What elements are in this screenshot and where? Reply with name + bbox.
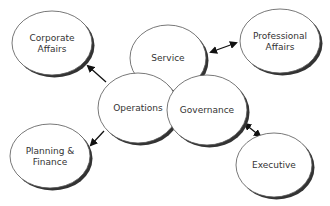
node-label: Finance xyxy=(33,157,68,167)
connector-governance-executive xyxy=(245,124,260,136)
node-planning[interactable]: Planning &Finance xyxy=(10,124,93,191)
connector-service-professional xyxy=(211,43,236,52)
node-label: Planning & xyxy=(26,146,75,156)
connector-operations-planning xyxy=(91,131,104,145)
node-label: Corporate xyxy=(30,33,75,43)
node-professional[interactable]: ProfessionalAffairs xyxy=(240,9,323,76)
node-label: Operations xyxy=(113,103,163,113)
node-label: Affairs xyxy=(266,42,295,52)
node-label: Professional xyxy=(253,31,307,41)
node-governance[interactable]: Governance xyxy=(167,75,250,148)
node-executive[interactable]: Executive xyxy=(236,133,315,200)
node-label: Affairs xyxy=(38,44,67,54)
node-label: Governance xyxy=(180,105,235,115)
node-label: Executive xyxy=(252,160,296,170)
org-diagram: CorporateAffairsProfessionalAffairsServi… xyxy=(0,0,330,206)
node-layer: CorporateAffairsProfessionalAffairsServi… xyxy=(10,9,323,200)
connector-operations-corporate xyxy=(88,66,106,82)
node-corporate[interactable]: CorporateAffairs xyxy=(12,11,95,78)
node-label: Service xyxy=(151,53,185,63)
